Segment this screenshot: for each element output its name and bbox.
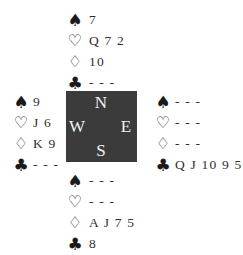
south-diamonds-cards: A J 7 5 <box>89 214 135 232</box>
heart-icon: ♡ <box>67 194 83 210</box>
compass-table: N W E S <box>66 91 137 162</box>
club-icon: ♣ <box>155 157 171 173</box>
club-icon: ♣ <box>67 236 83 252</box>
north-clubs-cards: - - - <box>89 74 115 92</box>
heart-icon: ♡ <box>13 115 29 131</box>
diamond-icon: ♢ <box>155 136 171 152</box>
compass-east-label: E <box>116 118 136 135</box>
compass-west-label: W <box>67 118 87 135</box>
club-icon: ♣ <box>67 75 83 91</box>
east-spades-cards: - - - <box>175 93 201 111</box>
club-icon: ♣ <box>13 157 29 173</box>
spade-icon: ♠ <box>13 94 29 110</box>
north-diamonds-cards: 10 <box>89 53 105 71</box>
south-spades-cards: - - - <box>89 172 115 190</box>
west-clubs-cards: - - - <box>33 156 59 174</box>
compass-south-label: S <box>91 142 111 159</box>
east-diamonds-cards: - - - <box>175 135 201 153</box>
diamond-icon: ♢ <box>13 136 29 152</box>
spade-icon: ♠ <box>67 173 83 189</box>
diamond-icon: ♢ <box>67 215 83 231</box>
north-spades-cards: 7 <box>89 11 97 29</box>
heart-icon: ♡ <box>67 33 83 49</box>
west-spades-cards: 9 <box>33 93 41 111</box>
west-hearts-cards: J 6 <box>33 114 52 132</box>
south-hearts-cards: - - - <box>89 193 115 211</box>
compass-north-label: N <box>91 94 111 111</box>
west-diamonds-cards: K 9 <box>33 135 56 153</box>
spade-icon: ♠ <box>155 94 171 110</box>
north-hearts-cards: Q 7 2 <box>89 32 125 50</box>
south-clubs-cards: 8 <box>89 235 97 253</box>
heart-icon: ♡ <box>155 115 171 131</box>
east-hearts-cards: - - - <box>175 114 201 132</box>
spade-icon: ♠ <box>67 12 83 28</box>
east-clubs-cards: Q J 10 9 5 <box>175 156 243 174</box>
diamond-icon: ♢ <box>67 54 83 70</box>
